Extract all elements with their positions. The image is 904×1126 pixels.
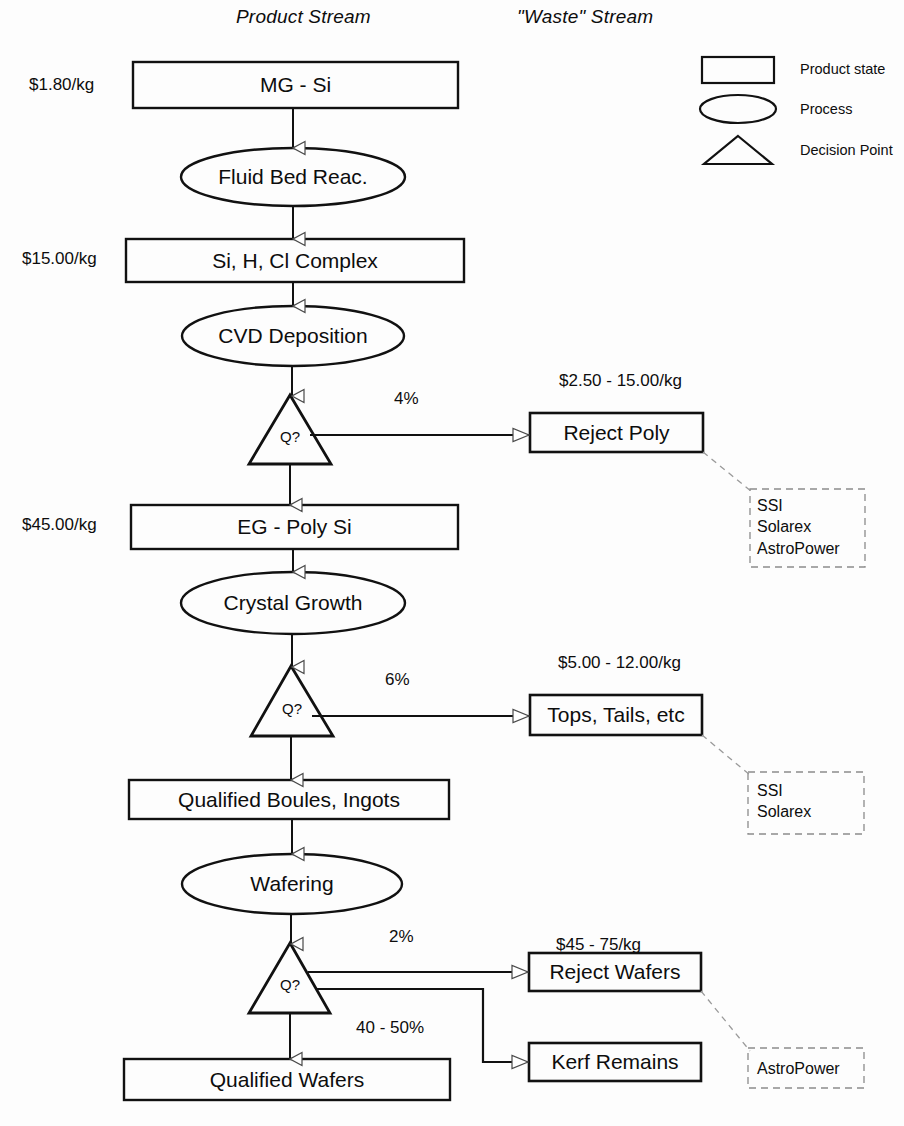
header-product-stream: Product Stream	[236, 7, 371, 26]
node-label-wafering: Wafering	[182, 854, 402, 914]
consumer-item: Solarex	[757, 801, 811, 822]
consumer-leader-wafers	[701, 991, 750, 1051]
consumer-list-tops: SSI Solarex	[757, 780, 811, 823]
legend-label-decision-point: Decision Point	[800, 143, 893, 158]
price-label-eg-poly-si: $45.00/kg	[22, 516, 97, 533]
price-label-mg-si: $1.80/kg	[29, 76, 94, 93]
branch-percent-reject-poly: 4%	[394, 390, 419, 407]
consumer-item: AstroPower	[757, 538, 840, 559]
price-label-reject-poly: $2.50 - 15.00/kg	[559, 372, 682, 389]
consumer-leader-poly	[703, 452, 752, 492]
node-label-si-h-cl-complex: Si, H, Cl Complex	[126, 239, 464, 282]
consumer-list-poly: SSI Solarex AstroPower	[757, 495, 840, 559]
branch-percent-reject-wafers: 2%	[389, 928, 414, 945]
branch-percent-kerf-remains: 40 - 50%	[356, 1019, 424, 1036]
node-label-tops-tails-etc: Tops, Tails, etc	[530, 695, 702, 735]
node-label-qualified-boules-ingots: Qualified Boules, Ingots	[129, 780, 449, 819]
flowchart-canvas: Product Stream "Waste" Stream Product st…	[0, 0, 904, 1126]
node-label-qualified-wafers: Qualified Wafers	[124, 1059, 450, 1100]
node-label-fluid-bed-reac: Fluid Bed Reac.	[181, 148, 405, 206]
node-label-crystal-growth: Crystal Growth	[181, 572, 405, 634]
consumer-leader-tops	[702, 735, 750, 775]
node-label-eg-poly-si: EG - Poly Si	[131, 505, 458, 549]
consumer-list-wafers: AstroPower	[757, 1058, 840, 1079]
price-label-tops-tails: $5.00 - 12.00/kg	[558, 654, 681, 671]
flowchart-vector-layer	[0, 0, 904, 1126]
consumer-item: SSI	[757, 495, 840, 516]
price-label-si-h-cl-complex: $15.00/kg	[22, 250, 97, 267]
legend-label-process: Process	[800, 102, 852, 117]
node-label-decision-3: Q?	[258, 972, 322, 996]
legend-shape-ellipse	[700, 95, 776, 123]
header-waste-stream: "Waste" Stream	[517, 7, 653, 26]
consumer-item: Solarex	[757, 516, 840, 537]
node-label-reject-poly: Reject Poly	[530, 413, 703, 452]
node-label-cvd-deposition: CVD Deposition	[182, 306, 404, 366]
node-label-kerf-remains: Kerf Remains	[529, 1043, 701, 1081]
legend-shape-rectangle	[702, 57, 774, 83]
consumer-item: SSI	[757, 780, 811, 801]
node-label-reject-wafers: Reject Wafers	[529, 953, 701, 991]
branch-percent-tops-tails: 6%	[385, 671, 410, 688]
node-label-decision-2: Q?	[260, 696, 324, 720]
consumer-item: AstroPower	[757, 1058, 840, 1079]
node-label-mg-si: MG - Si	[133, 62, 458, 108]
legend-label-product-state: Product state	[800, 62, 885, 77]
price-label-reject-wafers: $45 - 75/kg	[556, 936, 641, 953]
node-label-decision-1: Q?	[258, 424, 322, 448]
legend-shape-triangle	[704, 136, 772, 164]
